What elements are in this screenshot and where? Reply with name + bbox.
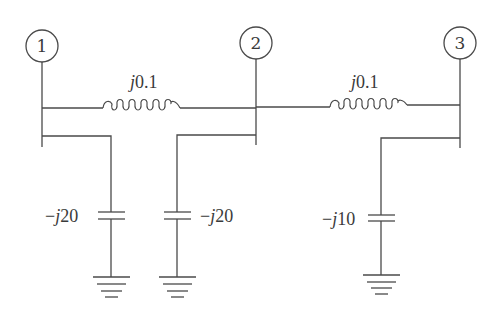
capacitor-icon xyxy=(368,215,395,221)
ground-icon xyxy=(159,277,196,297)
capacitor-icon xyxy=(164,212,191,219)
shunt-bus-2: −j20 xyxy=(159,135,256,297)
line-1-2: j0.1 xyxy=(42,72,256,110)
shunt-bus-3: −j10 xyxy=(322,138,460,294)
shunt-bus-1: −j20 xyxy=(42,136,130,297)
shunt-1-impedance-label: −j20 xyxy=(45,206,78,226)
bus-1: 1 xyxy=(26,30,58,147)
line-1-2-impedance-label: j0.1 xyxy=(128,72,158,92)
shunt-1-wire-top xyxy=(42,136,111,212)
ground-icon xyxy=(93,277,130,297)
shunt-2-wire-top xyxy=(177,135,256,212)
bus-3-label: 3 xyxy=(455,33,466,53)
inductor-icon xyxy=(103,100,180,111)
bus-2: 2 xyxy=(240,27,272,145)
ground-icon xyxy=(363,275,400,294)
line-2-3-impedance-label: j0.1 xyxy=(349,72,379,92)
shunt-3-wire-top xyxy=(381,138,460,215)
shunt-3-impedance-label: −j10 xyxy=(322,209,355,229)
inductor-icon xyxy=(330,99,407,110)
line-2-3: j0.1 xyxy=(256,72,460,109)
capacitor-icon xyxy=(98,212,125,219)
bus-2-label: 2 xyxy=(251,33,262,53)
circuit-diagram: 1 2 3 j0.1 j0.1 xyxy=(0,0,497,319)
shunt-2-impedance-label: −j20 xyxy=(200,206,233,226)
bus-3: 3 xyxy=(444,27,476,148)
bus-1-label: 1 xyxy=(37,36,48,56)
